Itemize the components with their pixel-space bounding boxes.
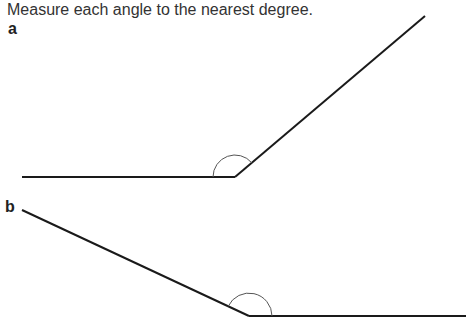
angle-b	[22, 210, 466, 316]
angle-b-ray-slanted	[22, 210, 249, 316]
angle-b-arc	[228, 293, 272, 316]
angle-a-arc	[213, 155, 252, 177]
angle-a	[22, 16, 425, 177]
angles-diagram	[0, 0, 466, 317]
angle-a-ray-slanted	[235, 16, 425, 177]
